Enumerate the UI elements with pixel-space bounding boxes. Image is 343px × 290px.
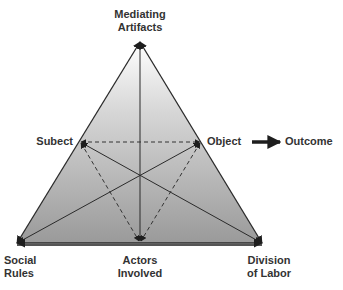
label-mediating-artifacts: Mediating Artifacts xyxy=(90,8,190,34)
label-social-rules-line1: Social xyxy=(4,254,44,267)
label-object: Object xyxy=(207,135,241,148)
label-mediating-artifacts-line1: Mediating xyxy=(90,8,190,21)
label-division-of-labor-line2: of Labor xyxy=(234,267,304,280)
label-social-rules-line2: Rules xyxy=(4,267,44,280)
label-social-rules: Social Rules xyxy=(4,254,44,280)
label-actors-involved-line2: Involved xyxy=(110,267,170,280)
label-division-of-labor: Division of Labor xyxy=(234,254,304,280)
label-actors-involved: Actors Involved xyxy=(110,254,170,280)
label-outcome: Outcome xyxy=(285,135,333,148)
label-subject: Subect xyxy=(33,135,73,148)
label-actors-involved-line1: Actors xyxy=(110,254,170,267)
label-mediating-artifacts-line2: Artifacts xyxy=(90,21,190,34)
label-division-of-labor-line1: Division xyxy=(234,254,304,267)
